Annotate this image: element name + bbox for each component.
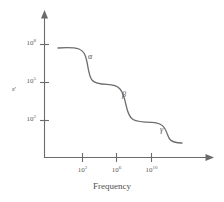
x-tick-label-1: 102: [67, 167, 98, 174]
y-tick-label-3: 102: [8, 116, 36, 123]
x-tick-label-2: 106: [101, 167, 132, 174]
alpha-relaxation-label: α: [88, 53, 92, 61]
x-tick-label-3: 1010: [136, 167, 167, 174]
permittivity-curve: [58, 48, 182, 143]
dielectric-relaxation-chart: 108 105 102 102 106 1010 Frequency ε' α …: [0, 0, 224, 202]
gamma-relaxation-label: γ: [160, 126, 163, 134]
x-axis-title: Frequency: [0, 182, 224, 191]
x-axis-arrowhead: [206, 154, 215, 161]
beta-relaxation-label: β: [122, 91, 126, 99]
y-axis-title: ε': [7, 86, 21, 93]
y-axis-arrowhead: [41, 10, 48, 19]
y-tick-label-1: 108: [8, 40, 36, 47]
y-tick-label-2: 105: [8, 78, 36, 85]
